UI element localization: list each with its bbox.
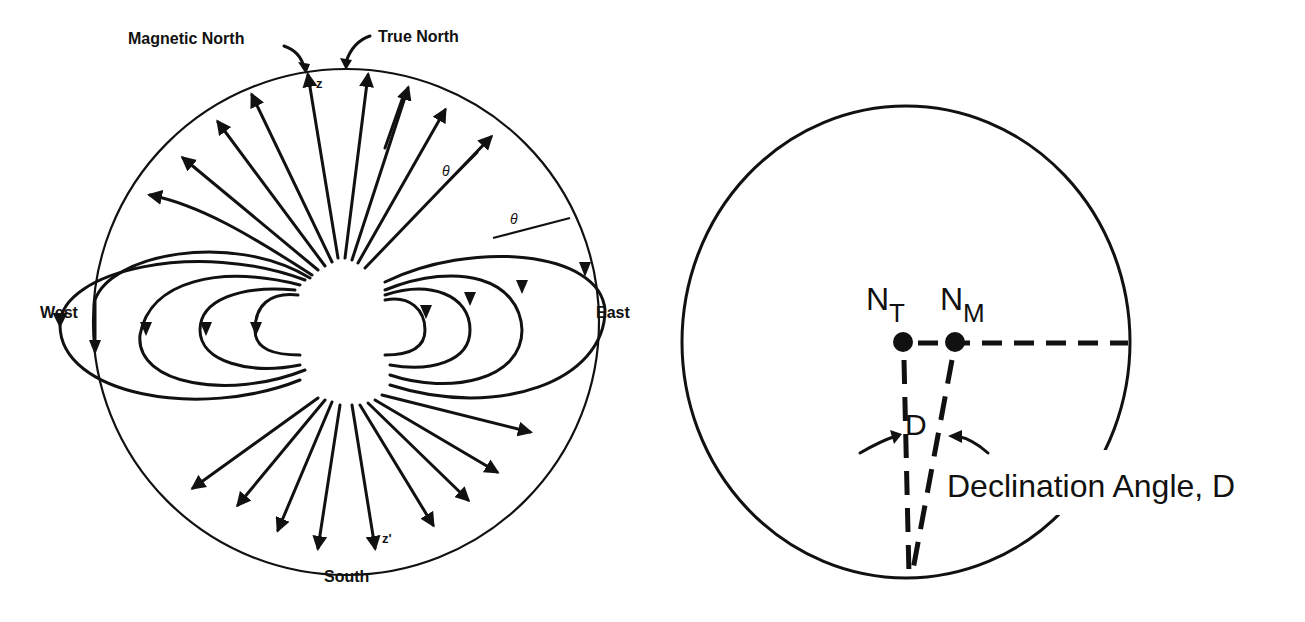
n-mag-label: NM (940, 281, 985, 328)
angle-arrow-left-icon (860, 436, 896, 453)
south-field-lines (193, 395, 530, 548)
diagram-canvas: Magnetic North True North West East Sout… (0, 0, 1305, 622)
theta-label-2: θ (510, 211, 518, 227)
true-north-pointer-icon (346, 36, 370, 62)
east-loops (385, 152, 605, 398)
west-label: West (40, 304, 79, 321)
magnetic-north-label: Magnetic North (128, 30, 244, 47)
z-prime-label: z' (382, 531, 392, 546)
declination-angle-label: Declination Angle, D (947, 468, 1235, 504)
z-label: z (316, 76, 323, 91)
n-true-label: NT (866, 281, 905, 328)
east-label: East (596, 304, 630, 321)
true-north-pole-dot (893, 332, 913, 352)
theta-label-1: θ (442, 163, 450, 179)
true-meridian-dash (904, 360, 909, 575)
south-label: South (324, 568, 369, 585)
magnetic-north-pole-dot (945, 332, 965, 352)
north-field-lines (150, 75, 491, 275)
right-figure: NT NM D Declination Angle, D (682, 106, 1235, 578)
left-figure: Magnetic North True North West East Sout… (40, 28, 630, 585)
d-angle-label: D (905, 408, 927, 441)
earth-outline (93, 69, 599, 575)
true-north-label: True North (378, 28, 459, 45)
